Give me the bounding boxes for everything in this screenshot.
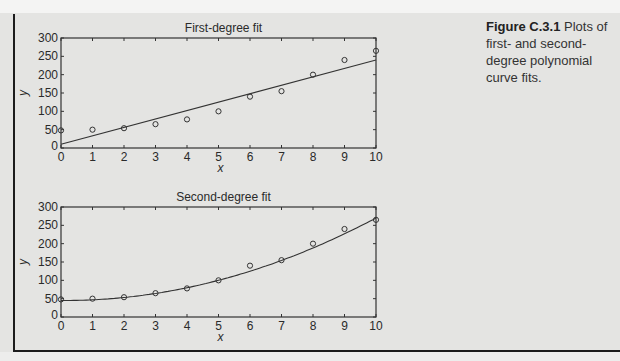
data-point — [342, 226, 347, 231]
x-tick-label: 7 — [278, 150, 285, 164]
y-tick-label: 100 — [38, 104, 58, 118]
y-tick-label: 0 — [51, 308, 58, 322]
x-axis-label: x — [217, 330, 225, 344]
x-tick-label: 6 — [247, 150, 254, 164]
y-tick-label: 50 — [45, 292, 59, 306]
data-point — [247, 263, 252, 268]
y-tick-label: 0 — [51, 139, 58, 153]
x-tick-label: 8 — [310, 150, 317, 164]
x-tick-label: 3 — [152, 319, 159, 333]
data-point — [90, 127, 95, 132]
x-tick-label: 10 — [369, 319, 383, 333]
data-point — [90, 296, 95, 301]
y-tick-label: 150 — [38, 86, 58, 100]
x-tick-label: 9 — [341, 319, 348, 333]
data-point — [342, 57, 347, 62]
fit-line — [61, 60, 376, 144]
plot-area-border — [61, 207, 376, 317]
x-tick-label: 0 — [58, 319, 65, 333]
data-point — [247, 94, 252, 99]
x-tick-label: 7 — [278, 319, 285, 333]
data-point — [310, 241, 315, 246]
y-tick-label: 50 — [45, 123, 59, 137]
data-point — [216, 109, 221, 114]
page-margin-bottom — [0, 352, 620, 361]
chart-title: First-degree fit — [185, 21, 263, 35]
y-axis-label: y — [16, 258, 30, 266]
y-tick-label: 100 — [38, 273, 58, 287]
data-point — [279, 89, 284, 94]
first-degree-fit-chart: First-degree fit012345678910050100150200… — [0, 0, 400, 175]
x-tick-label: 1 — [89, 319, 96, 333]
y-tick-label: 150 — [38, 255, 58, 269]
x-tick-label: 1 — [89, 150, 96, 164]
x-tick-label: 2 — [121, 150, 128, 164]
x-tick-label: 4 — [184, 319, 191, 333]
y-axis-label: y — [16, 89, 30, 97]
y-tick-label: 250 — [38, 49, 58, 63]
fit-curve — [61, 218, 376, 301]
figure-label: Figure C.3.1 — [486, 19, 560, 34]
data-point — [153, 122, 158, 127]
y-tick-label: 200 — [38, 68, 58, 82]
chart-title: Second-degree fit — [176, 190, 271, 204]
y-tick-label: 250 — [38, 218, 58, 232]
figure-caption: Figure C.3.1 Plots of first- and second-… — [486, 18, 620, 86]
x-tick-label: 2 — [121, 319, 128, 333]
x-tick-label: 10 — [369, 150, 383, 164]
y-tick-label: 200 — [38, 237, 58, 251]
x-tick-label: 4 — [184, 150, 191, 164]
x-tick-label: 3 — [152, 150, 159, 164]
data-point — [184, 117, 189, 122]
x-tick-label: 8 — [310, 319, 317, 333]
x-tick-label: 9 — [341, 150, 348, 164]
second-degree-fit-chart: Second-degree fit01234567891005010015020… — [0, 170, 400, 345]
x-tick-label: 0 — [58, 150, 65, 164]
y-tick-label: 300 — [38, 200, 58, 214]
x-tick-label: 6 — [247, 319, 254, 333]
y-tick-label: 300 — [38, 31, 58, 45]
